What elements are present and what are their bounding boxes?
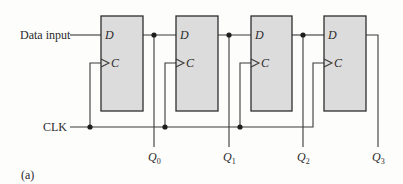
clk-label: CLK [43,120,67,134]
flip-flop-0: D C [101,16,143,111]
flip-flop-2: D C [251,16,292,111]
flip-flop-3: D C [324,16,366,111]
q3-label: Q3 [372,150,385,166]
q3-output-wire [366,35,378,147]
pin-c-label: C [334,56,343,70]
flip-flop-1: D C [176,16,218,111]
circuit-svg: Data input CLK D C [0,0,403,184]
q0-label: Q0 [148,150,161,166]
pin-c-label: C [111,56,120,70]
clock-junction-2 [237,124,242,129]
clock-junction-0 [87,124,92,129]
q1-label: Q1 [223,150,236,166]
pin-d-label: D [104,28,114,42]
pin-c-label: C [186,56,195,70]
pin-d-label: D [254,28,264,42]
clock-feed-ff1 [165,63,176,127]
pin-d-label: D [179,28,189,42]
pin-d-label: D [327,28,337,42]
clock-feed-ff2 [240,63,251,127]
q2-junction [300,32,305,37]
q2-label: Q2 [297,150,310,166]
figure-label: (a) [21,168,34,182]
clock-feed-ff0 [90,63,101,127]
q0-junction [151,32,156,37]
q1-junction [226,32,231,37]
shift-register-diagram: Data input CLK D C [0,0,403,184]
clock-junction-1 [162,124,167,129]
pin-c-label: C [261,56,270,70]
data-input-label: Data input [20,28,71,42]
